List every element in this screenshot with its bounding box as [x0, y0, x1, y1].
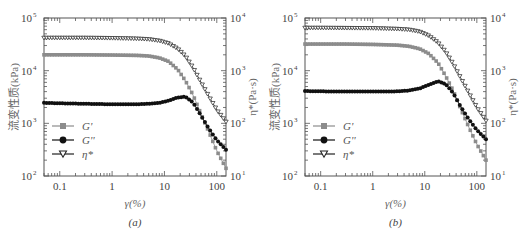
svg-text:2: 2 — [502, 116, 506, 124]
svg-text:4: 4 — [242, 11, 246, 19]
y-left-tick-label: 10 — [282, 117, 294, 129]
series-g-prime — [303, 42, 488, 162]
legend-item: η* — [52, 148, 93, 160]
y-axis-left-label: 流变性质(kPa) — [268, 63, 282, 131]
y-axis-left-label: 流变性质(kPa) — [7, 63, 21, 131]
svg-text:2: 2 — [33, 169, 37, 177]
panel-caption: (b) — [389, 216, 402, 229]
y-left-tick-label: 10 — [21, 170, 33, 182]
panel-caption: (a) — [129, 216, 142, 229]
y-right-tick-label: 10 — [490, 170, 502, 182]
y-left-tick-label: 10 — [21, 65, 33, 77]
y-left-tick-label: 10 — [282, 170, 294, 182]
svg-text:3: 3 — [242, 64, 246, 72]
y-left-tick-label: 10 — [282, 65, 294, 77]
legend-item: η* — [313, 148, 354, 160]
y-axis-right-label: η*(Pa·s) — [246, 78, 259, 116]
y-axis-right-label: η*(Pa·s) — [506, 78, 519, 116]
y-axis-right: 101102103104 — [221, 11, 246, 182]
x-tick-label: 10 — [159, 180, 171, 192]
svg-text:3: 3 — [33, 116, 37, 124]
plot-frame — [305, 18, 486, 176]
legend-label: η* — [82, 148, 93, 160]
svg-text:5: 5 — [294, 11, 298, 19]
legend-label: G'' — [82, 134, 95, 146]
legend-label: G' — [343, 120, 354, 132]
x-tick-label: 1 — [370, 180, 376, 192]
y-left-tick-label: 10 — [21, 117, 33, 129]
y-left-tick-label: 10 — [282, 12, 294, 24]
y-right-tick-label: 10 — [230, 12, 242, 24]
y-right-tick-label: 10 — [230, 65, 242, 77]
x-tick-label: 10 — [419, 180, 431, 192]
svg-text:3: 3 — [294, 116, 298, 124]
svg-text:1: 1 — [502, 169, 506, 177]
chart-a-svg: 0.1110100102103104105101102103104流变性质(kP… — [0, 0, 262, 235]
y-right-tick-label: 10 — [490, 117, 502, 129]
x-axis-label: γ(%) — [125, 197, 146, 210]
x-tick-label: 0.1 — [314, 180, 328, 192]
legend: G'G''η* — [52, 120, 95, 160]
plot-frame — [44, 18, 226, 176]
y-right-tick-label: 10 — [230, 117, 242, 129]
legend-label: G' — [82, 120, 93, 132]
chart-panel-a: 0.1110100102103104105101102103104流变性质(kP… — [0, 0, 262, 235]
legend-item: G'' — [52, 134, 95, 146]
x-axis-label: γ(%) — [385, 197, 406, 210]
legend-item: G' — [52, 120, 93, 132]
series-g-double-prime — [303, 79, 488, 141]
y-right-tick-label: 10 — [490, 12, 502, 24]
svg-text:4: 4 — [294, 64, 298, 72]
y-right-tick-label: 10 — [490, 65, 502, 77]
svg-text:5: 5 — [33, 11, 37, 19]
chart-panel-b: 0.1110100102103104105101102103104流变性质(kP… — [262, 0, 525, 235]
legend-label: η* — [343, 148, 354, 160]
legend: G'G''η* — [313, 120, 356, 160]
chart-b-svg: 0.1110100102103104105101102103104流变性质(kP… — [262, 0, 525, 235]
legend-label: G'' — [343, 134, 356, 146]
svg-text:2: 2 — [294, 169, 298, 177]
x-tick-label: 100 — [209, 180, 226, 192]
series-g-double-prime — [42, 95, 228, 152]
svg-text:4: 4 — [502, 11, 506, 19]
legend-item: G'' — [313, 134, 356, 146]
svg-text:2: 2 — [242, 116, 246, 124]
svg-text:4: 4 — [33, 64, 37, 72]
svg-text:3: 3 — [502, 64, 506, 72]
x-tick-label: 1 — [109, 180, 115, 192]
legend-item: G' — [313, 120, 354, 132]
y-axis-left: 102103104105 — [282, 11, 310, 182]
y-left-tick-label: 10 — [21, 12, 33, 24]
y-right-tick-label: 10 — [230, 170, 242, 182]
x-tick-label: 100 — [469, 180, 486, 192]
x-tick-label: 0.1 — [53, 180, 67, 192]
svg-text:1: 1 — [242, 169, 246, 177]
